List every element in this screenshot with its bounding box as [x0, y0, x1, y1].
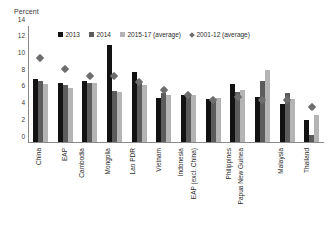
y-tick-label: 0: [21, 133, 25, 140]
x-tick-label-text: Malaysia: [277, 148, 284, 174]
x-tick-label-text: China: [35, 148, 42, 165]
bar-set: [28, 26, 53, 143]
x-tick: China: [28, 146, 53, 222]
y-tick-label: 10: [18, 50, 25, 57]
chart-screenshot: Percent 201320142015-17 (average)2001-12…: [0, 0, 331, 225]
x-tick-label: Thailand: [302, 123, 309, 148]
x-tick: EAP (excl. China): [201, 146, 226, 222]
bar: [314, 115, 319, 143]
bar-group: [201, 26, 226, 143]
bar: [43, 84, 48, 143]
y-axis-title: Percent: [14, 8, 39, 15]
x-tick-label-text: Vietnam: [155, 148, 162, 172]
x-tick-label-text: Papua New Guinea: [237, 148, 244, 204]
x-tick-label: Philippines: [225, 117, 232, 148]
y-tick-label: 2: [21, 117, 25, 124]
y-tick-label: 6: [21, 83, 25, 90]
x-tick-label-text: Thailand: [302, 148, 309, 173]
bar-group: [250, 26, 275, 143]
x-tick-label-text: Philippines: [225, 148, 232, 179]
x-tick-label: Papua New Guinea: [237, 92, 244, 148]
bar: [92, 83, 97, 143]
x-tick: Malaysia: [275, 146, 300, 222]
x-axis-labels: ChinaEAPCambodiaMongoliaLao PDRVietnamIn…: [28, 146, 324, 222]
bar-set: [250, 26, 275, 143]
x-tick-label-text: Lao PDR: [129, 148, 136, 174]
x-tick: Thailand: [299, 146, 324, 222]
y-tick-label: 4: [21, 100, 25, 107]
y-tick-label: 14: [18, 16, 25, 23]
bar: [290, 99, 295, 143]
bar: [216, 98, 221, 143]
x-tick-label-text: Cambodia: [78, 148, 85, 178]
bar-group: [53, 26, 78, 143]
x-tick-label-text: EAP (excl. China): [190, 148, 197, 199]
x-tick-label: EAP (excl. China): [190, 97, 197, 148]
bar: [166, 95, 171, 143]
x-tick-label: Vietnam: [155, 124, 162, 148]
x-tick: Mongolia: [102, 146, 127, 222]
bar-set: [53, 26, 78, 143]
x-tick-label: Indonesia: [177, 120, 184, 148]
x-tick-label: Mongolia: [104, 122, 111, 148]
x-tick-label-text: Mongolia: [104, 148, 111, 174]
x-tick: EAP: [53, 146, 78, 222]
x-tick-label: Cambodia: [78, 118, 85, 148]
bar: [265, 70, 270, 143]
y-tick-label: 12: [18, 33, 25, 40]
bar: [117, 92, 122, 143]
x-tick-label-text: EAP: [61, 148, 68, 161]
bar: [142, 85, 147, 143]
bar-group: [28, 26, 53, 143]
x-tick-label-text: Indonesia: [177, 148, 184, 176]
x-tick-label: Lao PDR: [129, 122, 136, 148]
x-tick: Cambodia: [77, 146, 102, 222]
x-tick: Papua New Guinea: [250, 146, 275, 222]
x-tick: Lao PDR: [127, 146, 152, 222]
x-tick: Vietnam: [151, 146, 176, 222]
x-tick-label: Malaysia: [277, 122, 284, 148]
x-tick-label: EAP: [61, 135, 68, 148]
bar-set: [201, 26, 226, 143]
y-tick-label: 8: [21, 66, 25, 73]
x-tick-label: China: [35, 131, 42, 148]
